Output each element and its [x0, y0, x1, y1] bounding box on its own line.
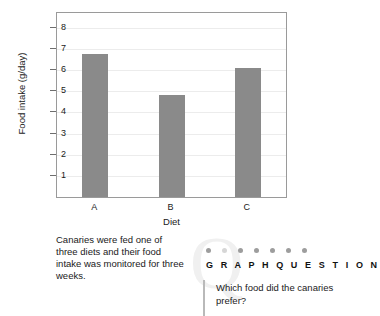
y-tick-mark-1: [50, 175, 56, 176]
plot-area: [56, 12, 287, 198]
dot-6: [286, 248, 291, 253]
x-tick-label-A: A: [74, 202, 114, 212]
dot-1: [206, 248, 211, 253]
graph-question-panel: Q G R A P H Q U E S T I O N Which food d…: [188, 234, 362, 316]
y-tick-label-6: 6: [46, 65, 66, 74]
x-tick-label-B: B: [151, 202, 191, 212]
question-divider: [203, 280, 205, 316]
dot-4: [254, 248, 259, 253]
y-tick-mark-6: [50, 69, 56, 70]
y-tick-mark-5: [50, 90, 56, 91]
question-text: Which food did the canaries prefer?: [216, 282, 362, 307]
x-tick-label-C: C: [227, 202, 267, 212]
bar-A: [82, 54, 108, 197]
graph-question-heading: G R A P H Q U E S T I O N: [206, 260, 380, 270]
y-tick-mark-3: [50, 133, 56, 134]
bar-chart-figure: 87654321 ABC Food intake (g/day) Diet: [0, 0, 362, 228]
bar-C: [235, 68, 261, 197]
y-tick-label-5: 5: [46, 86, 66, 95]
y-axis-title: Food intake (g/day): [16, 14, 27, 174]
x-axis-title: Diet: [56, 216, 287, 227]
y-tick-label-7: 7: [46, 44, 66, 53]
y-tick-mark-4: [50, 111, 56, 112]
gridline-8: [57, 28, 286, 29]
y-tick-mark-8: [50, 27, 56, 28]
decorative-dot-row: [206, 248, 307, 253]
dot-3: [238, 248, 243, 253]
y-tick-label-2: 2: [46, 150, 66, 159]
dot-7: [302, 248, 307, 253]
y-tick-label-1: 1: [46, 171, 66, 180]
y-tick-label-4: 4: [46, 107, 66, 116]
bar-B: [159, 95, 185, 197]
y-tick-label-3: 3: [46, 129, 66, 138]
y-tick-mark-7: [50, 48, 56, 49]
gridline-7: [57, 49, 286, 50]
y-tick-mark-2: [50, 154, 56, 155]
dot-2: [222, 248, 227, 253]
chart-caption: Canaries were fed one of three diets and…: [56, 234, 186, 282]
dot-5: [270, 248, 275, 253]
y-tick-label-8: 8: [46, 23, 66, 32]
